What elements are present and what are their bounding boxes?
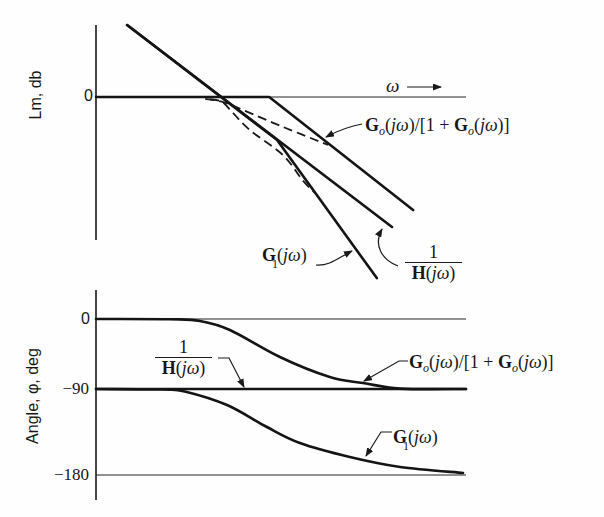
label-part: o — [379, 124, 385, 138]
label-part: jω — [432, 263, 450, 283]
label-part: ) — [199, 358, 205, 378]
magnitude-tick-0: 0 — [33, 86, 93, 106]
bode-diagram: Lm, db 0 ω Go(jω)/[1 + Go(jω)] G1(jω) 1 … — [0, 0, 604, 517]
magnitude-plot — [96, 25, 466, 278]
inverse-h-pointer-arrow-icon — [378, 229, 398, 266]
label-part: jω — [524, 352, 542, 372]
label-part: jω — [480, 115, 498, 135]
label-part: jω — [435, 352, 453, 372]
closed-loop-pointer-arrow-icon — [326, 124, 362, 137]
label-part: )/[1 + — [409, 115, 454, 135]
magnitude-g1-label: G1(jω) — [262, 245, 307, 267]
phase-tick-0: 0 — [30, 309, 90, 329]
label-part: )] — [542, 352, 554, 372]
label-part: G — [365, 115, 379, 135]
magnitude-inverse-h-label: 1 H(jω) — [405, 242, 462, 283]
label-part: ) — [449, 263, 455, 283]
phase-g1-label: G1(jω) — [393, 427, 438, 449]
fraction-numerator: 1 — [429, 242, 438, 262]
label-part: )] — [498, 115, 510, 135]
magnitude-series — [96, 25, 466, 278]
label-part: jω — [414, 427, 432, 447]
phase-tick-minus-90: −90 — [29, 379, 89, 399]
fraction-numerator: 1 — [179, 337, 188, 357]
label-part: H — [412, 263, 426, 283]
label-part: ) — [301, 245, 307, 265]
frequency-axis-label: ω — [386, 76, 399, 96]
label-part: G — [409, 352, 423, 372]
label-part: jω — [283, 245, 301, 265]
g1-pointer-arrow-icon — [316, 251, 352, 265]
label-part: ) — [432, 427, 438, 447]
label-part: G — [498, 352, 512, 372]
dashed-curve-lower — [210, 99, 316, 194]
label-part: o — [423, 361, 429, 375]
label-part: )/[1 + — [453, 352, 498, 372]
dashed-curve-upper — [205, 99, 328, 145]
phase-closed-loop-label: Go(jω)/[1 + Go(jω)] — [409, 352, 554, 374]
label-part: jω — [182, 358, 200, 378]
magnitude-closed-loop-label: Go(jω)/[1 + Go(jω)] — [365, 115, 510, 137]
label-part: 1 — [272, 257, 278, 271]
label-part: o — [512, 361, 518, 375]
phase-tick-minus-180: −180 — [29, 465, 89, 485]
phase-inverse-h-label: 1 H(jω) — [155, 337, 212, 378]
g1-phase-pointer-arrow-icon — [366, 432, 392, 456]
label-part: G — [454, 115, 468, 135]
phase-plot — [96, 290, 466, 500]
label-part: 1 — [403, 439, 409, 453]
phase-series — [96, 319, 466, 475]
closed-loop-asymptote — [96, 97, 413, 210]
fraction-denominator: H(jω) — [412, 263, 456, 283]
label-part: o — [468, 124, 474, 138]
inverse-h-phase-pointer-arrow-icon — [218, 358, 244, 387]
label-part: H — [162, 358, 176, 378]
fraction-denominator: H(jω) — [162, 358, 206, 378]
label-part: jω — [391, 115, 409, 135]
closed-loop-phase-pointer-arrow-icon — [364, 361, 408, 381]
